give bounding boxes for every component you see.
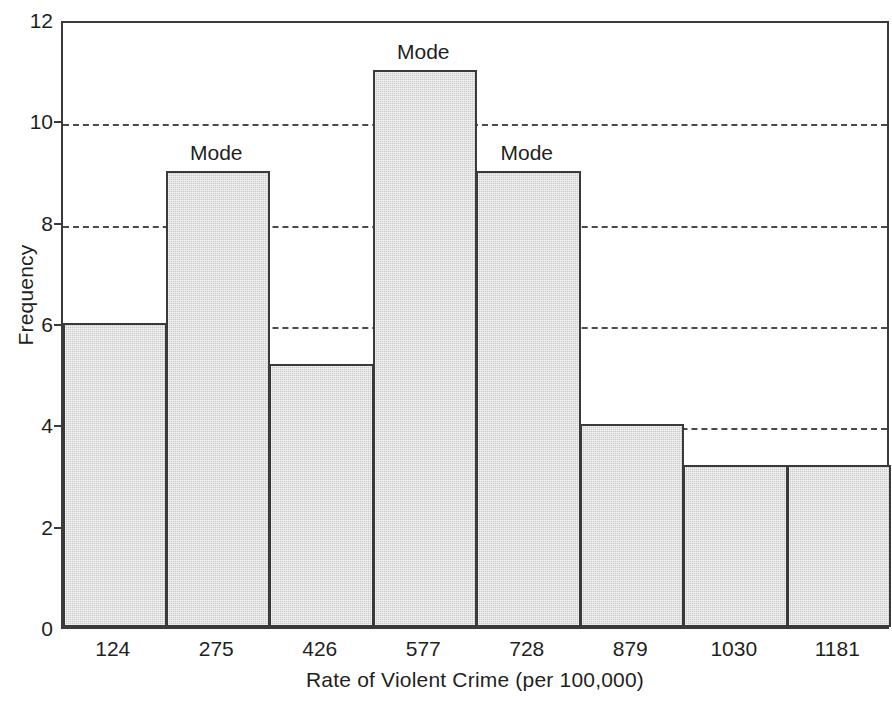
bar-275[interactable] [166,171,271,627]
y-axis-title: Frequency [14,225,38,365]
x-tick-label-124: 124 [61,637,165,661]
y-tick-mark-2 [54,527,61,529]
bar-1030[interactable] [683,465,788,627]
bar-728[interactable] [476,171,581,627]
x-tick-label-577: 577 [372,637,476,661]
x-tick-label-1030: 1030 [682,637,786,661]
bar-124[interactable] [63,323,167,627]
x-tick-label-728: 728 [475,637,579,661]
y-tick-mark-4 [54,425,61,427]
x-tick-label-1181: 1181 [786,637,890,661]
y-tick-mark-10 [54,121,61,123]
y-tick-label-4: 4 [0,414,53,438]
bar-1181[interactable] [787,465,892,627]
y-tick-label-12: 12 [0,9,53,33]
x-tick-label-879: 879 [579,637,683,661]
y-tick-mark-6 [54,324,61,326]
y-tick-label-10: 10 [0,110,53,134]
plot-area [61,21,889,629]
mode-annotation-275: Mode [190,141,243,165]
bar-577[interactable] [373,70,478,627]
mode-annotation-728: Mode [500,141,553,165]
x-axis-title: Rate of Violent Crime (per 100,000) [61,668,889,692]
histogram-figure: Frequency 024681012 12427542657772887910… [0,0,892,702]
y-tick-mark-8 [54,223,61,225]
bar-426[interactable] [269,364,374,627]
y-tick-label-6: 6 [0,313,53,337]
mode-annotation-577: Mode [397,40,450,64]
y-tick-label-0: 0 [0,617,53,641]
y-tick-label-2: 2 [0,516,53,540]
y-tick-label-8: 8 [0,212,53,236]
x-tick-label-275: 275 [165,637,269,661]
bar-879[interactable] [580,424,685,627]
x-tick-label-426: 426 [268,637,372,661]
